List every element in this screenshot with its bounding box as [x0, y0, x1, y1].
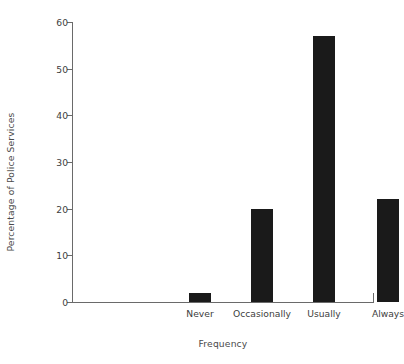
plot-area: 0102030405060 NeverOccasionallyUsuallyAl… — [72, 22, 374, 302]
x-tick-label-never: Never — [186, 308, 213, 319]
x-tick-label-usually: Usually — [307, 308, 341, 319]
y-axis-title: Percentage of Police Services — [0, 0, 20, 364]
y-tick-label: 0 — [62, 297, 68, 308]
x-axis-line — [72, 302, 374, 303]
y-tick-label: 30 — [56, 157, 68, 168]
bar-always — [377, 199, 399, 302]
x-axis-end-tick — [373, 293, 374, 303]
bar-usually — [313, 36, 335, 302]
y-tick-label: 60 — [56, 17, 68, 28]
bar-never — [189, 293, 211, 302]
y-axis-line — [72, 22, 73, 303]
bar-occasionally — [251, 209, 273, 302]
y-tick-label: 40 — [56, 110, 68, 121]
y-tick-label: 50 — [56, 63, 68, 74]
x-tick-label-occasionally: Occasionally — [233, 308, 291, 319]
x-axis-title: Frequency — [72, 338, 374, 349]
y-tick-label: 10 — [56, 250, 68, 261]
x-tick-label-always: Always — [372, 308, 404, 319]
y-tick-label: 20 — [56, 203, 68, 214]
